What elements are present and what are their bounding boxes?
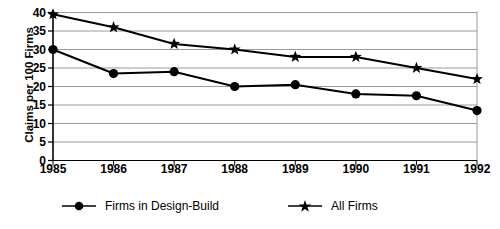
data-point-marker [472, 106, 481, 115]
legend-label: Firms in Design-Build [105, 199, 219, 213]
data-point-marker [229, 43, 241, 54]
chart-container: Claims per 100 Firms 0510152025303540 19… [0, 0, 500, 229]
data-point-marker [291, 80, 300, 89]
plot-area [0, 0, 500, 229]
data-point-marker [350, 51, 362, 62]
x-axis-ticks [53, 161, 477, 166]
series-markers [47, 8, 483, 115]
circle-marker-icon [62, 198, 96, 214]
data-point-marker [230, 82, 239, 91]
data-point-marker [289, 51, 301, 62]
data-point-marker [170, 67, 179, 76]
series-line [53, 50, 477, 111]
data-point-marker [411, 62, 423, 73]
data-point-marker [168, 38, 180, 49]
chart-legend: Firms in Design-Build All Firms [0, 196, 500, 218]
data-point-marker [48, 45, 57, 54]
data-point-marker [351, 89, 360, 98]
series-line [53, 14, 477, 79]
legend-label: All Firms [331, 199, 378, 213]
data-point-marker [412, 91, 421, 100]
data-point-marker [109, 69, 118, 78]
legend-item-all-firms[interactable]: All Firms [288, 196, 378, 216]
legend-item-firms-in-design-build[interactable]: Firms in Design-Build [62, 196, 219, 216]
star-marker-icon [288, 198, 322, 214]
